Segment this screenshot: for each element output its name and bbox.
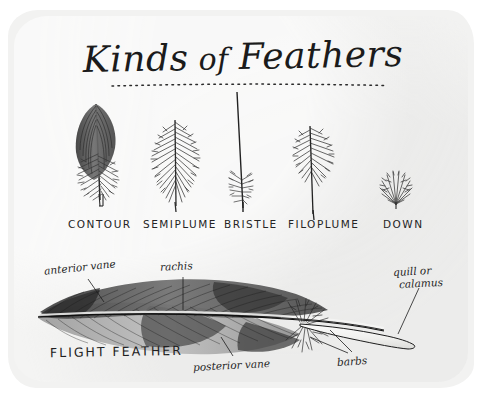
semiplume-feather-icon [151, 120, 200, 212]
quill-calamus-shape [300, 324, 415, 349]
contour-feather-icon [76, 104, 119, 206]
filoplume-feather-icon [293, 126, 334, 220]
bristle-feather-icon [229, 92, 253, 212]
illustration-page: Kinds of Feathers [0, 0, 486, 406]
feather-label-bristle: BRISTLE [224, 218, 278, 230]
down-feather-icon [380, 171, 412, 209]
feather-label-semiplume: SEMIPLUME [143, 218, 217, 230]
flight-feather-title: FLIGHT FEATHER [50, 343, 183, 360]
feather-label-contour: CONTOUR [68, 218, 132, 230]
feather-label-down: DOWN [383, 218, 424, 230]
feather-label-filoplume: FILOPLUME [288, 218, 359, 230]
part-label-barbs: barbs [337, 354, 368, 368]
title-dotted-rule [112, 84, 385, 86]
part-label-rachis: rachis [160, 259, 193, 273]
part-label-calamus: calamus [399, 276, 443, 290]
